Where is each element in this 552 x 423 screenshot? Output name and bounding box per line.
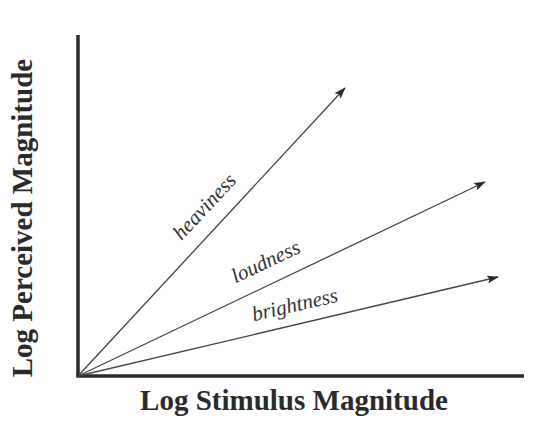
heaviness-arrow <box>78 88 345 376</box>
brightness-arrow <box>78 277 498 376</box>
y-axis-title: Log Perceived Magnitude <box>4 38 40 398</box>
diagram-canvas <box>0 0 552 423</box>
x-axis-title: Log Stimulus Magnitude <box>0 382 552 418</box>
loudness-arrow <box>78 182 485 376</box>
